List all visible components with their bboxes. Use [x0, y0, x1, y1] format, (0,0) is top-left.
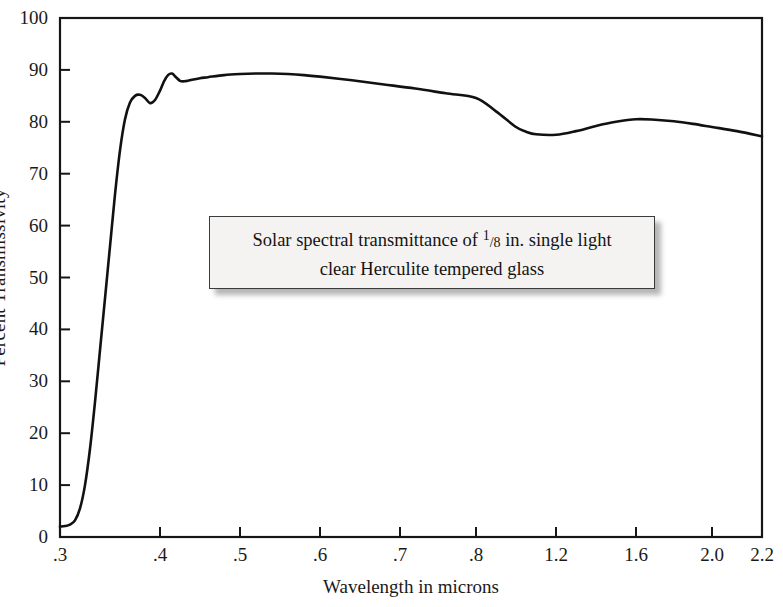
y-tick-label: 70	[8, 164, 48, 183]
y-tick-label: 50	[8, 268, 48, 287]
x-tick-label: .7	[375, 545, 425, 564]
y-tick-label: 40	[8, 319, 48, 338]
x-tick-label: .6	[295, 545, 345, 564]
chart-plot-area	[0, 0, 783, 607]
y-tick-label: 30	[8, 371, 48, 390]
y-axis-title: Percent Transmissivity	[0, 18, 10, 537]
transmissivity-curve	[60, 73, 762, 526]
annotation-fraction-denominator: 8	[494, 235, 501, 250]
x-axis-title: Wavelength in microns	[60, 576, 762, 598]
x-tick-label: .5	[215, 545, 265, 564]
y-tick-label: 0	[8, 527, 48, 546]
x-tick-label: .4	[135, 545, 185, 564]
x-axis-tick-marks	[160, 527, 712, 537]
annotation-line2: clear Herculite tempered glass	[320, 259, 544, 279]
annotation-fraction-numerator: 1	[483, 228, 490, 243]
annotation-line1-prefix: Solar spectral transmittance of	[252, 230, 482, 250]
y-tick-label: 60	[8, 216, 48, 235]
y-tick-label: 90	[8, 60, 48, 79]
x-tick-label: 2.2	[737, 545, 783, 564]
x-tick-label: 2.0	[687, 545, 737, 564]
y-tick-label: 10	[8, 475, 48, 494]
annotation-text: Solar spectral transmittance of 1/8 in. …	[242, 223, 621, 282]
y-tick-label: 100	[8, 8, 48, 27]
x-tick-label: .8	[451, 545, 501, 564]
x-tick-label: 1.2	[531, 545, 581, 564]
y-tick-label: 80	[8, 112, 48, 131]
y-tick-label: 20	[8, 423, 48, 442]
annotation-line1-suffix: in. single light	[501, 230, 612, 250]
x-tick-label: 1.6	[611, 545, 661, 564]
figure-container: 0102030405060708090100 .3.4.5.6.7.81.21.…	[0, 0, 783, 607]
y-axis-tick-marks	[60, 18, 70, 485]
x-tick-label: .3	[35, 545, 85, 564]
annotation-callout-box: Solar spectral transmittance of 1/8 in. …	[209, 216, 655, 289]
